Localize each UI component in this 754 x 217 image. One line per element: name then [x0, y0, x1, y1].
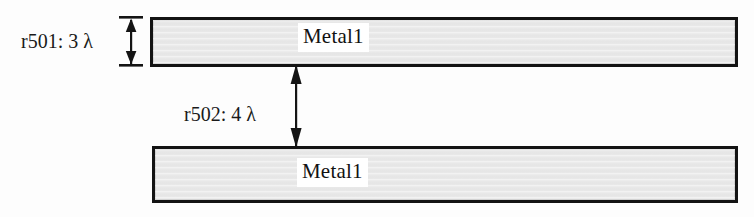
metal-bar-bottom	[152, 146, 738, 203]
dimension-arrow-r501	[116, 12, 146, 74]
dimension-arrow-r502	[281, 62, 311, 150]
metal-label-top: Metal1	[298, 23, 369, 52]
arrowhead-down	[126, 51, 137, 65]
dimension-label-r501: r501: 3 λ	[21, 31, 93, 51]
bar-texture	[153, 20, 735, 64]
extension-tick-top	[119, 16, 143, 19]
arrowhead-up	[126, 19, 137, 33]
extension-tick-bottom	[119, 64, 143, 67]
arrowhead-up	[291, 65, 302, 85]
metal-spacing-diagram: Metal1 Metal1 r501: 3 λ r502: 4 λ	[0, 0, 754, 217]
metal-label-bottom: Metal1	[297, 158, 368, 187]
dimension-label-r502: r502: 4 λ	[184, 104, 256, 124]
bar-texture	[155, 149, 735, 200]
arrowhead-down	[291, 128, 302, 148]
metal-bar-top	[150, 17, 738, 67]
